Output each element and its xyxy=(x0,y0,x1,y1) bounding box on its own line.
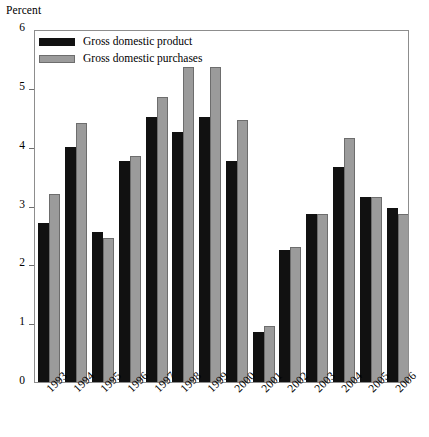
bar-gdp-1996 xyxy=(119,161,130,382)
bar-gdp-purchases-1997 xyxy=(157,97,168,382)
bar-group xyxy=(92,31,114,382)
bar-group xyxy=(199,31,221,382)
bar-gdp-purchases-2003 xyxy=(317,214,328,382)
plot-area xyxy=(34,30,409,383)
bar-group xyxy=(279,31,301,382)
chart-legend: Gross domestic productGross domestic pur… xyxy=(39,34,202,68)
bar-gdp-purchases-2000 xyxy=(237,120,248,382)
bar-gdp-purchases-1995 xyxy=(103,238,114,382)
black-swatch xyxy=(39,38,75,46)
y-axis-tick-label: 2 xyxy=(19,257,25,269)
legend-item: Gross domestic purchases xyxy=(39,51,202,66)
y-axis-tick-mark xyxy=(29,324,34,325)
bar-gdp-purchases-2002 xyxy=(290,247,301,382)
bar-gdp-2003 xyxy=(306,214,317,382)
bar-gdp-2000 xyxy=(226,161,237,382)
bar-chart: Percent 19931994199519961997199819992000… xyxy=(0,0,429,437)
y-axis-tick-mark xyxy=(29,148,34,149)
bar-gdp-2002 xyxy=(279,250,290,382)
y-axis-tick-mark xyxy=(29,265,34,266)
bar-group xyxy=(306,31,328,382)
bar-group xyxy=(360,31,382,382)
y-axis-tick-mark xyxy=(29,207,34,208)
legend-item-label: Gross domestic purchases xyxy=(83,53,202,65)
y-axis-tick-label: 0 xyxy=(19,375,25,387)
bar-gdp-1998 xyxy=(172,132,183,382)
bar-gdp-purchases-2006 xyxy=(398,214,409,382)
y-axis-title: Percent xyxy=(6,4,41,16)
bar-gdp-1995 xyxy=(92,232,103,382)
y-axis-tick-label: 4 xyxy=(19,140,25,152)
bar-gdp-purchases-1996 xyxy=(130,156,141,383)
bar-gdp-2005 xyxy=(360,197,371,382)
bar-gdp-2004 xyxy=(333,167,344,382)
bar-group xyxy=(333,31,355,382)
legend-item: Gross domestic product xyxy=(39,34,202,49)
bar-gdp-purchases-2004 xyxy=(344,138,355,382)
bar-gdp-2006 xyxy=(387,208,398,382)
bar-gdp-1997 xyxy=(146,117,157,382)
gray-swatch xyxy=(39,55,75,63)
bar-gdp-purchases-1994 xyxy=(76,123,87,382)
y-axis-tick-mark xyxy=(29,89,34,90)
bar-group xyxy=(387,31,409,382)
bar-gdp-1994 xyxy=(65,147,76,382)
y-axis-tick-label: 6 xyxy=(19,22,25,34)
bar-group xyxy=(172,31,194,382)
bar-gdp-purchases-2005 xyxy=(371,197,382,382)
bar-group xyxy=(65,31,87,382)
y-axis-tick-label: 1 xyxy=(19,316,25,328)
bar-group xyxy=(119,31,141,382)
bar-gdp-purchases-1998 xyxy=(183,67,194,382)
bar-gdp-1999 xyxy=(199,117,210,382)
bar-gdp-purchases-1993 xyxy=(49,194,60,382)
bar-gdp-1993 xyxy=(38,223,49,382)
y-axis-tick-label: 5 xyxy=(19,81,25,93)
bar-group xyxy=(146,31,168,382)
legend-item-label: Gross domestic product xyxy=(83,36,192,48)
y-axis-tick-label: 3 xyxy=(19,199,25,211)
bar-gdp-purchases-1999 xyxy=(210,67,221,382)
bar-group xyxy=(226,31,248,382)
bar-group xyxy=(38,31,60,382)
bar-group xyxy=(253,31,275,382)
